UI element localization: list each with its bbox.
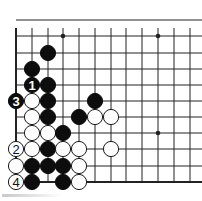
- board-shadow-decoration: [2, 194, 62, 197]
- black-stone-disc: [40, 141, 55, 156]
- move-number-label: 1: [28, 78, 35, 93]
- black-stone: [71, 109, 86, 124]
- black-stone: [55, 174, 70, 189]
- white-stone: [24, 141, 39, 156]
- black-stone: [40, 158, 55, 173]
- white-stone: [87, 109, 102, 124]
- white-stone-disc: [24, 125, 39, 140]
- black-stone: [55, 125, 70, 140]
- white-stone-disc: [71, 174, 86, 189]
- black-stone: [40, 141, 55, 156]
- white-stone-disc: [103, 141, 118, 156]
- star-point: [61, 34, 66, 39]
- black-stone-disc: [71, 109, 86, 124]
- black-stone-1: 1: [24, 77, 39, 92]
- black-stone-disc: [87, 93, 102, 108]
- white-stone-disc: [87, 109, 102, 124]
- star-point: [156, 131, 161, 136]
- black-stone-disc: [40, 45, 55, 60]
- white-stone: [55, 141, 70, 156]
- white-stone-disc: [40, 125, 55, 140]
- white-stone-disc: [24, 109, 39, 124]
- white-stone: [40, 125, 55, 140]
- white-stone: [103, 109, 118, 124]
- white-stone: [71, 141, 86, 156]
- black-stone: [40, 77, 55, 92]
- black-stone-disc: [24, 174, 39, 189]
- black-stone-disc: [24, 61, 39, 76]
- black-stone-disc: [55, 174, 70, 189]
- black-stone: [24, 158, 39, 173]
- white-stone: [71, 158, 86, 173]
- black-stone-disc: [24, 158, 39, 173]
- go-board: 1324: [0, 0, 202, 201]
- white-stone: [71, 174, 86, 189]
- black-stone: [87, 93, 102, 108]
- white-stone-disc: [71, 141, 86, 156]
- white-stone-disc: [24, 141, 39, 156]
- white-stone-disc: [55, 141, 70, 156]
- white-stone: [24, 109, 39, 124]
- black-stone-disc: [40, 109, 55, 124]
- star-point: [156, 34, 161, 39]
- black-stone-3: 3: [8, 93, 23, 108]
- white-stone-disc: [8, 158, 23, 173]
- move-number-label: 2: [12, 142, 19, 157]
- black-stone-disc: [40, 93, 55, 108]
- white-stone-disc: [24, 93, 39, 108]
- white-stone-disc: [103, 109, 118, 124]
- black-stone: [24, 61, 39, 76]
- white-stone: [103, 141, 118, 156]
- white-stone: [24, 93, 39, 108]
- white-stone-disc: [71, 158, 86, 173]
- black-stone: [40, 109, 55, 124]
- white-stone-2: 2: [8, 141, 23, 156]
- black-stone-disc: [55, 158, 70, 173]
- black-stone: [40, 45, 55, 60]
- move-number-label: 3: [12, 94, 19, 109]
- white-stone: [8, 158, 23, 173]
- white-stone: [24, 125, 39, 140]
- black-stone: [24, 174, 39, 189]
- black-stone: [55, 158, 70, 173]
- black-stone-disc: [55, 125, 70, 140]
- black-stone-disc: [40, 77, 55, 92]
- black-stone-disc: [40, 158, 55, 173]
- white-stone-4: 4: [8, 174, 23, 189]
- move-number-label: 4: [12, 175, 19, 190]
- black-stone: [40, 93, 55, 108]
